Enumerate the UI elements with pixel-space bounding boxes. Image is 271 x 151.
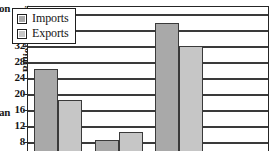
bar-exports-1	[58, 100, 82, 151]
bar-exports-2	[119, 132, 143, 151]
bar-imports-2	[95, 140, 119, 151]
legend-label: Imports	[32, 11, 69, 26]
exports-swatch	[17, 29, 27, 39]
bar-imports-3	[155, 23, 179, 151]
legend-item: Exports	[17, 26, 69, 41]
chart-figure: on an Billion Dollars 81216202428323640 …	[0, 0, 271, 151]
imports-swatch	[17, 14, 27, 24]
legend-label: Exports	[32, 26, 69, 41]
bar-imports-1	[34, 69, 58, 151]
chart-legend: ImportsExports	[12, 8, 76, 44]
legend-item: Imports	[17, 11, 69, 26]
bar-exports-3	[179, 46, 203, 151]
